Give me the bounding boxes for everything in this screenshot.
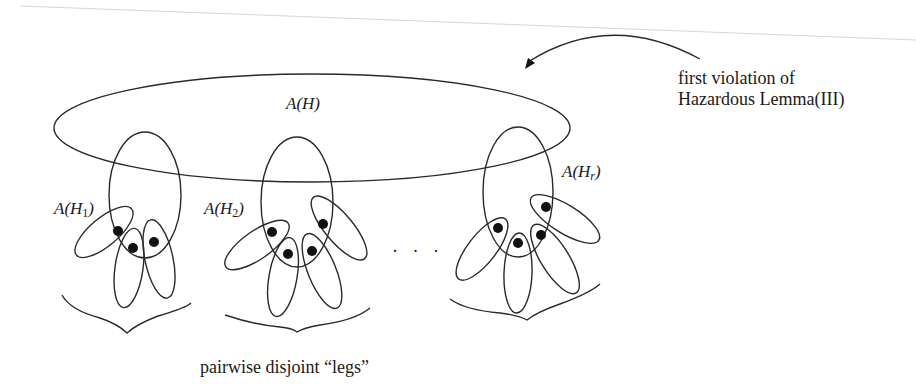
label-A-H1-base: A(H1)	[54, 199, 94, 218]
vertex-dot	[513, 238, 523, 248]
vertex-dot	[493, 223, 503, 233]
leg-ellipse	[448, 210, 517, 287]
vertex-dot	[149, 237, 159, 247]
vertex-dot	[113, 226, 123, 236]
label-A-H2: A(H2)	[204, 200, 244, 219]
subscript-2: 2	[232, 206, 238, 220]
label-A-Hr-base: A(Hr)	[562, 162, 601, 181]
subscript-r: r	[590, 169, 595, 183]
ellipsis-dots: · · ·	[392, 242, 444, 260]
vertex-dot	[541, 202, 551, 212]
subset-group-1	[62, 132, 191, 333]
arrow-head-icon	[525, 58, 535, 69]
label-A-H: A(H)	[286, 95, 320, 112]
vertex-dot	[267, 227, 277, 237]
vertex-dot	[128, 243, 138, 253]
annotation-text: first violation of Hazardous Lemma(III)	[678, 68, 844, 110]
annotation-line-2: Hazardous Lemma(III)	[678, 89, 844, 110]
subset-group-2	[218, 137, 376, 332]
leg-ellipse	[262, 235, 303, 319]
caption-pairwise-disjoint-legs: pairwise disjoint “legs”	[200, 358, 369, 376]
subset-group-r	[448, 127, 607, 320]
label-A-Hr: A(Hr)	[562, 163, 601, 182]
label-A-H2-base: A(H2)	[204, 199, 244, 218]
label-A-H1: A(H1)	[54, 200, 94, 219]
annotation-line-1: first violation of	[678, 68, 844, 89]
brace-1	[62, 295, 191, 333]
vertex-dot	[307, 246, 317, 256]
vertex-dot	[318, 219, 328, 229]
subscript-1: 1	[82, 206, 88, 220]
leg-ellipse	[294, 229, 350, 314]
leg-ellipse	[524, 186, 607, 252]
vertex-dot	[283, 249, 293, 259]
diagram-canvas	[0, 0, 916, 387]
set-A-H1-ellipse	[109, 132, 181, 258]
set-A-H-ellipse	[54, 74, 570, 182]
leg-ellipse	[218, 212, 296, 279]
brace-r	[450, 284, 600, 320]
annotation-arrow-curve	[528, 35, 700, 62]
scan-line	[20, 6, 916, 40]
vertex-dot	[536, 230, 546, 240]
brace-2	[225, 308, 370, 332]
